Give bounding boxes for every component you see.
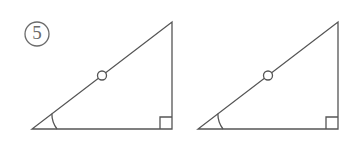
problem-number-label: 5	[25, 22, 49, 46]
angle-arc-right	[218, 114, 223, 129]
angle-arc-left	[52, 114, 57, 129]
hypotenuse-midpoint-marker-left	[98, 71, 107, 80]
hypotenuse-midpoint-marker-right	[264, 71, 273, 80]
right-triangle-right	[198, 22, 338, 129]
right-triangle-left	[32, 22, 172, 129]
right-angle-mark-left	[160, 117, 172, 129]
geometry-figure-container: 5	[0, 0, 352, 142]
right-angle-mark-right	[326, 117, 338, 129]
problem-number-text: 5	[32, 22, 42, 43]
geometry-figure-svg: 5	[0, 0, 352, 142]
